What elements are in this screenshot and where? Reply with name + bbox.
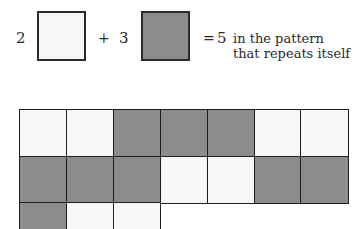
pattern-cell-gray xyxy=(300,156,348,204)
pattern-cell-white xyxy=(66,202,114,229)
pattern-cell-gray xyxy=(113,109,161,157)
pattern-cell-white xyxy=(66,109,114,157)
pattern-cell-white xyxy=(160,156,208,204)
pattern-cell-white xyxy=(207,156,255,204)
pattern-cell-gray xyxy=(19,156,67,204)
pattern-cell-gray xyxy=(254,156,302,204)
pattern-cell-gray xyxy=(19,202,67,229)
pattern-cell-white xyxy=(19,109,67,157)
plus-sign: + xyxy=(98,31,110,46)
total-count: 5 xyxy=(217,31,227,46)
pattern-cell-gray xyxy=(113,156,161,204)
gray-square-legend xyxy=(141,11,190,61)
pattern-cell-white xyxy=(113,202,161,229)
pattern-cell-white xyxy=(254,109,302,157)
pattern-cell-gray xyxy=(207,109,255,157)
pattern-cell-white xyxy=(300,109,348,157)
equals-sign: = xyxy=(203,31,215,46)
white-count: 2 xyxy=(16,31,26,46)
caption-line-1: in the pattern xyxy=(233,31,324,46)
caption-line-2: that repeats itself xyxy=(233,46,350,61)
white-square-legend xyxy=(37,11,86,61)
pattern-cell-gray xyxy=(66,156,114,204)
pattern-cell-gray xyxy=(160,109,208,157)
gray-count: 3 xyxy=(119,31,129,46)
